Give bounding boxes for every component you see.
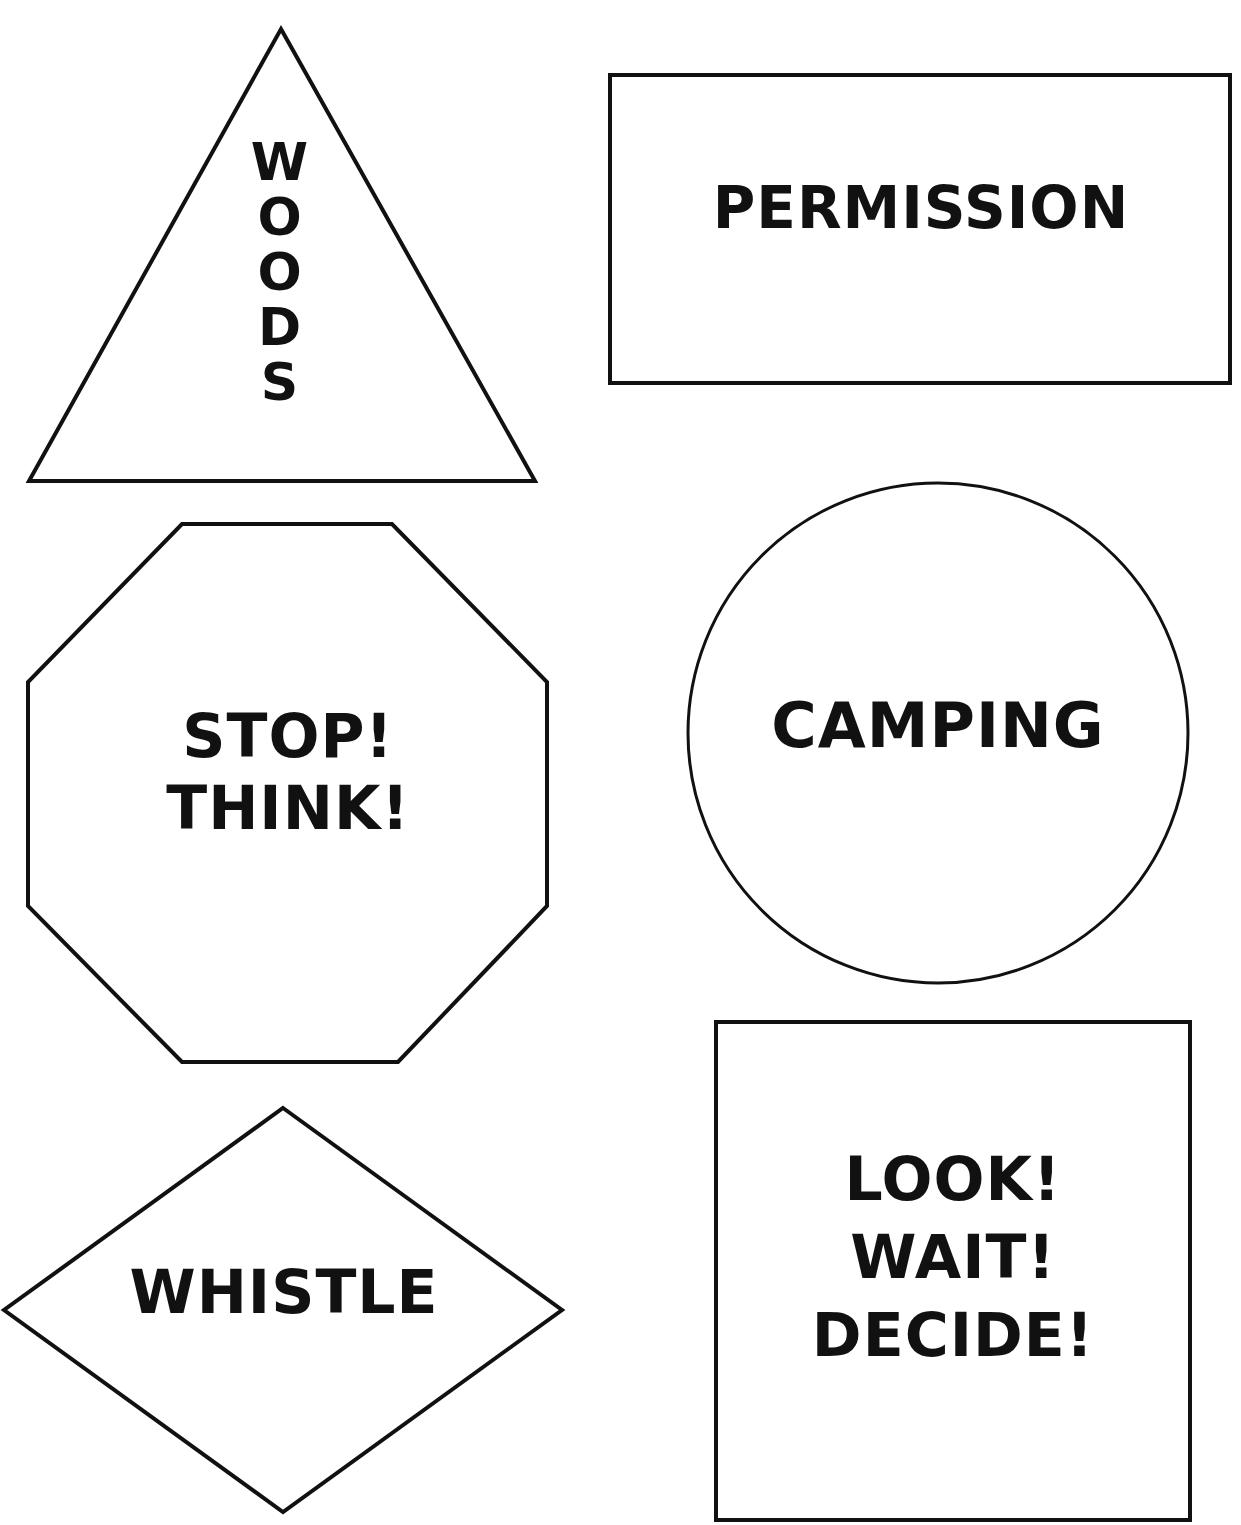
look-text: LOOK! xyxy=(716,1140,1190,1218)
woods-letter: W xyxy=(230,135,330,190)
permission-text: PERMISSION xyxy=(612,175,1230,242)
think-text: THINK! xyxy=(28,772,548,844)
woods-letter: O xyxy=(230,245,330,300)
woods-letter: D xyxy=(230,300,330,355)
whistle-text: WHISTLE xyxy=(4,1258,564,1327)
camping-label: CAMPING xyxy=(688,690,1188,761)
camping-text: CAMPING xyxy=(688,690,1188,761)
decide-text: DECIDE! xyxy=(716,1296,1190,1374)
whistle-label: WHISTLE xyxy=(4,1258,564,1327)
woods-letter: O xyxy=(230,190,330,245)
wait-text: WAIT! xyxy=(716,1218,1190,1296)
stop-think-label: STOP! THINK! xyxy=(28,700,548,844)
woods-letter: S xyxy=(230,355,330,410)
look-wait-decide-label: LOOK! WAIT! DECIDE! xyxy=(716,1140,1190,1374)
permission-label: PERMISSION xyxy=(612,175,1230,242)
woods-label: W O O D S xyxy=(230,135,330,410)
stop-text: STOP! xyxy=(28,700,548,772)
